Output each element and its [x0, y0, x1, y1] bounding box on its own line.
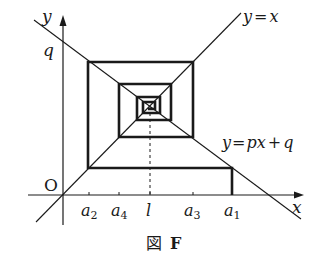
- x-axis-label: x: [292, 197, 302, 217]
- x-tick-labels: a2 a4 l a3 a1: [81, 201, 241, 222]
- cobweb-diagram: y q O x y=x y=px+q a2 a4 l a3 a1 図F: [0, 0, 326, 260]
- tick-label-a3: a3: [184, 201, 201, 222]
- origin-label: O: [44, 175, 58, 195]
- figure-caption: 図F: [146, 234, 182, 253]
- tick-label-a1: a1: [224, 201, 241, 222]
- cobweb-path: [88, 62, 232, 195]
- y-axis-label: y: [41, 6, 52, 26]
- q-label: q: [43, 40, 54, 60]
- tick-label-l: l: [146, 201, 151, 220]
- tick-label-a2: a2: [81, 201, 98, 222]
- identity-line-label: y=x: [242, 7, 278, 26]
- y-axis-arrow-icon: [60, 15, 67, 26]
- affine-line-label: y=px+q: [221, 133, 293, 152]
- tick-label-a4: a4: [111, 201, 128, 222]
